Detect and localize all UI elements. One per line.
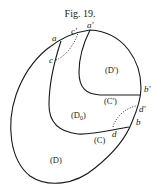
label-c-prime: c' [71, 26, 78, 36]
region-label-c: (C) [94, 135, 106, 145]
region-label-d: (D) [50, 155, 62, 165]
label-d: d [112, 129, 117, 139]
figure-19: Fig. 19. a a' c' c b' d' b d (D') (C') (… [0, 0, 161, 192]
label-c: c [49, 55, 53, 65]
label-a: a [52, 33, 57, 43]
label-b: b [136, 117, 141, 127]
region-label-c-prime: (C') [104, 96, 117, 106]
figure-title: Fig. 19. [65, 8, 96, 19]
dotted-chord-d-d-prime [113, 106, 136, 127]
region-label-d-prime: (D') [105, 65, 119, 75]
outer-boundary-curve [11, 30, 141, 183]
label-b-prime: b' [144, 84, 152, 94]
label-d-prime: d' [139, 104, 147, 114]
label-a-prime: a' [87, 20, 95, 30]
diagram-canvas: Fig. 19. a a' c' c b' d' b d (D') (C') (… [0, 0, 161, 192]
curve-c [49, 41, 129, 134]
region-label-d0: (D0) [71, 110, 86, 121]
inner-region-d-prime-curve [79, 30, 140, 95]
